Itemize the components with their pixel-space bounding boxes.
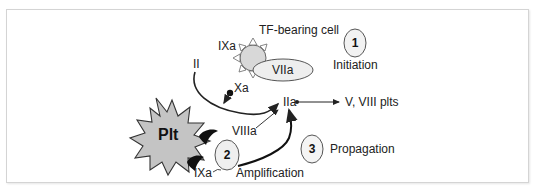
iia-targets-label: V, VIII plts	[345, 96, 399, 108]
step-3-number: 3	[306, 143, 318, 155]
factor-ii-label: II	[193, 58, 200, 70]
cell-ixa-label: IXa	[218, 40, 236, 52]
step-3-label: Propagation	[330, 143, 395, 155]
viia-label: VIIa	[272, 64, 293, 76]
step-2-label: Amplification	[236, 167, 304, 179]
tf-bearing-cell-label: TF-bearing cell	[259, 24, 339, 36]
amplification-to-iia-arrow	[238, 110, 291, 166]
factor-xa-label: Xa	[234, 82, 249, 94]
step-2-number: 2	[221, 149, 233, 161]
viiia-label: VIIIa	[232, 125, 257, 137]
platelet-label: Plt	[158, 127, 178, 143]
platelet-ixa-label: IXa	[194, 167, 212, 179]
step-1-number: 1	[349, 37, 361, 49]
factor-iia-label: IIa	[283, 96, 296, 108]
step-1-label: Initiation	[333, 59, 378, 71]
